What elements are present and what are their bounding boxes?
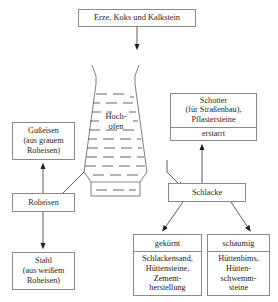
node-stahl-line2: (aus weißem <box>23 266 65 276</box>
node-blast-furnace-label: Hoch- ofen <box>88 112 144 132</box>
blast-furnace-flow-diagram: Erze, Koks und Kalkstein Hoch- ofen Guße… <box>0 0 278 302</box>
node-gekoernt-products: Schlackensand, Hüttensteine, Zement- her… <box>134 252 201 295</box>
node-schlacke: Schlacke <box>168 183 246 202</box>
node-schaumig-products: Hüttenbims, Hütten- schwemm- steine <box>208 252 269 295</box>
node-gekoernt-line3: Zement- <box>154 274 182 284</box>
node-schotter-line1: Schotter <box>200 96 227 106</box>
node-schaumig-line1: Hüttenbims, <box>218 254 258 264</box>
node-schlacke-label: Schlacke <box>192 188 222 198</box>
node-input-materials: Erze, Koks und Kalkstein <box>78 9 196 27</box>
node-stahl: Stahl (aus weißem Roheisen) <box>12 252 75 290</box>
furnace-label-line2: ofen <box>88 122 144 132</box>
node-schotter: Schotter (für Straßenbau), Pflasterstein… <box>170 93 257 141</box>
node-stahl-line3: Roheisen) <box>27 276 60 286</box>
node-schaumig-head-label: schaumig <box>223 239 255 248</box>
node-stahl-line1: Stahl <box>35 256 52 266</box>
node-gekoernt-line1: Schlackensand, <box>142 254 193 264</box>
node-roheisen: Roheisen <box>12 193 75 212</box>
node-gekoernt-head-label: gekörnt <box>155 239 180 248</box>
node-gekoernt: gekörnt Schlackensand, Hüttensteine, Zem… <box>133 234 202 296</box>
node-schaumig-line3: schwemm- <box>221 274 257 284</box>
node-gekoernt-line2: Hüttensteine, <box>146 264 189 274</box>
node-gusseisen-line3: Roheisen) <box>27 146 60 156</box>
node-schotter-state: erstarrt <box>171 128 256 140</box>
node-gusseisen-line2: (aus grauem <box>23 136 63 146</box>
node-schaumig-line2: Hütten- <box>226 264 251 274</box>
node-schotter-products: Schotter (für Straßenbau), Pflasterstein… <box>171 94 256 128</box>
node-schaumig: schaumig Hüttenbims, Hütten- schwemm- st… <box>207 234 270 296</box>
node-roheisen-label: Roheisen <box>28 198 58 208</box>
node-schaumig-line4: steine <box>229 283 248 293</box>
node-gekoernt-line4: herstellung <box>149 283 185 293</box>
connector-schlacke-to-schaumig <box>231 202 249 229</box>
node-schotter-state-label: erstarrt <box>202 129 225 139</box>
furnace-label-line1: Hoch- <box>88 112 144 122</box>
node-gekoernt-head: gekörnt <box>134 235 201 252</box>
connector-schlacke-to-gekoernt <box>164 202 183 229</box>
node-schotter-line2: (für Straßenbau), <box>186 105 242 115</box>
node-schotter-line3: Pflastersteine <box>191 115 235 125</box>
node-gusseisen-line1: Gußeisen <box>28 126 59 136</box>
node-gusseisen: Gußeisen (aus grauem Roheisen) <box>12 122 75 160</box>
node-schaumig-head: schaumig <box>208 235 269 252</box>
node-input-label: Erze, Koks und Kalkstein <box>94 13 180 23</box>
